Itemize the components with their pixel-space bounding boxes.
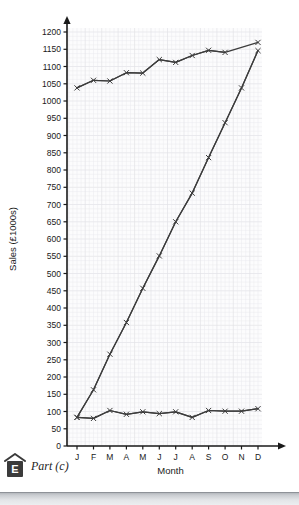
y-tick-label: 100 xyxy=(47,407,61,417)
y-tick-label: 300 xyxy=(47,338,61,348)
part-label-text: Part (c) xyxy=(31,459,69,474)
x-tick-label: F xyxy=(91,452,96,462)
y-tick-label: 1200 xyxy=(42,27,61,37)
y-tick-label: 1000 xyxy=(42,96,61,106)
y-tick-label: 200 xyxy=(47,372,61,382)
y-tick-label: 50 xyxy=(52,424,62,434)
y-tick-label: 400 xyxy=(47,303,61,313)
x-axis-arrow xyxy=(278,442,286,449)
badge-letter: E xyxy=(7,461,23,477)
y-tick-label: 150 xyxy=(47,389,61,399)
sales-line-chart: 0501001502002503003504004505005506006507… xyxy=(0,0,299,480)
y-tick-label: 700 xyxy=(47,200,61,210)
y-tick-label: 1100 xyxy=(43,62,62,72)
y-tick-label: 0 xyxy=(56,441,61,451)
x-tick-label: A xyxy=(124,452,130,462)
y-tick-label: 750 xyxy=(47,182,61,192)
y-tick-label: 350 xyxy=(47,320,61,330)
y-tick-label: 800 xyxy=(47,165,61,175)
y-tick-label: 1150 xyxy=(43,44,62,54)
bottom-bar-divider xyxy=(0,492,299,493)
y-axis-title: Sales (£1000s) xyxy=(7,207,18,271)
x-tick-label: J xyxy=(157,452,161,462)
y-axis-ticks: 0501001502002503003504004505005506006507… xyxy=(42,27,67,451)
y-tick-label: 500 xyxy=(47,269,61,279)
x-tick-label: J xyxy=(75,452,79,462)
x-tick-label: D xyxy=(255,452,261,462)
y-tick-label: 650 xyxy=(47,217,61,227)
x-tick-label: A xyxy=(189,452,195,462)
exam-badge: E xyxy=(4,453,26,479)
x-tick-label: N xyxy=(238,452,244,462)
x-tick-label: J xyxy=(174,452,178,462)
y-axis-arrow xyxy=(63,16,70,24)
y-tick-label: 550 xyxy=(47,251,61,261)
part-annotation: E Part (c) xyxy=(4,452,69,480)
x-tick-label: M xyxy=(139,452,146,462)
x-tick-label: O xyxy=(222,452,229,462)
x-axis-title: Month xyxy=(157,465,183,476)
x-tick-label: M xyxy=(106,452,113,462)
y-tick-label: 450 xyxy=(47,286,61,296)
y-tick-label: 850 xyxy=(47,148,61,158)
y-tick-label: 1050 xyxy=(42,79,61,89)
chart-page: 0501001502002503003504004505005506006507… xyxy=(0,0,299,505)
bottom-bar xyxy=(0,492,299,505)
y-tick-label: 250 xyxy=(47,355,61,365)
y-tick-label: 900 xyxy=(47,131,61,141)
chart-container: 0501001502002503003504004505005506006507… xyxy=(0,0,299,480)
y-tick-label: 600 xyxy=(47,234,61,244)
x-tick-label: S xyxy=(206,452,212,462)
y-tick-label: 950 xyxy=(47,113,61,123)
x-axis-ticks: JFMAMJJASOND xyxy=(75,446,261,462)
